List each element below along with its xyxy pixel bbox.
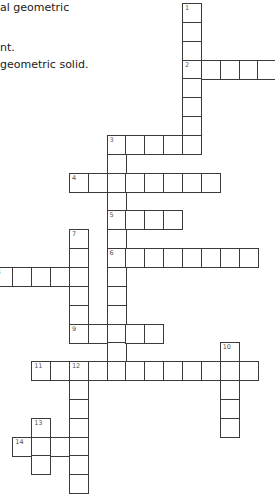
crossword-cell[interactable] [69,474,89,494]
crossword-cell[interactable] [182,22,202,42]
crossword-cell[interactable]: 1 [182,3,202,23]
crossword-cell[interactable]: 4 [69,173,89,193]
crossword-cell[interactable] [125,324,145,344]
crossword-cell[interactable]: 6 [107,248,127,268]
crossword-cell[interactable] [144,135,164,155]
crossword-cell[interactable] [88,361,108,381]
crossword-grid: 1235647981011121314 [0,0,275,494]
crossword-cell[interactable] [163,248,183,268]
crossword-cell[interactable] [69,248,89,268]
crossword-cell[interactable] [50,267,70,287]
crossword-cell[interactable] [125,135,145,155]
crossword-cell[interactable] [163,135,183,155]
crossword-cell[interactable] [163,361,183,381]
crossword-cell[interactable] [220,418,240,438]
clue-number: 7 [72,230,76,238]
crossword-cell[interactable] [50,361,70,381]
clue-number: 14 [15,438,23,446]
crossword-cell[interactable] [201,248,221,268]
crossword-cell[interactable]: 9 [69,324,89,344]
crossword-cell[interactable] [69,399,89,419]
crossword-cell[interactable] [69,455,89,475]
crossword-cell[interactable] [182,41,202,61]
crossword-cell[interactable] [163,210,183,230]
clue-number: 5 [110,211,114,219]
crossword-cell[interactable]: 3 [107,135,127,155]
crossword-cell[interactable] [125,248,145,268]
crossword-cell[interactable] [69,437,89,457]
crossword-cell[interactable] [201,60,221,80]
crossword-cell[interactable] [107,342,127,362]
crossword-cell[interactable] [144,324,164,344]
crossword-cell[interactable] [257,60,275,80]
clue-number: 10 [223,343,231,351]
crossword-cell[interactable] [88,173,108,193]
crossword-cell[interactable] [220,60,240,80]
clue-number: 13 [34,419,42,427]
crossword-cell[interactable] [107,267,127,287]
crossword-cell[interactable] [144,248,164,268]
crossword-cell[interactable] [144,173,164,193]
clue-number: 8 [0,268,1,276]
crossword-cell[interactable] [125,173,145,193]
crossword-cell[interactable] [107,229,127,249]
crossword-cell[interactable] [201,361,221,381]
crossword-cell[interactable] [107,324,127,344]
crossword-cell[interactable] [88,324,108,344]
crossword-cell[interactable] [107,286,127,306]
crossword-cell[interactable] [69,267,89,287]
crossword-cell[interactable] [182,116,202,136]
crossword-cell[interactable]: 5 [107,210,127,230]
crossword-cell[interactable] [182,361,202,381]
crossword-cell[interactable] [182,248,202,268]
crossword-cell[interactable]: 2 [182,60,202,80]
crossword-cell[interactable] [144,210,164,230]
clue-number: 6 [110,249,114,257]
crossword-cell[interactable] [107,154,127,174]
crossword-cell[interactable] [69,418,89,438]
clue-number: 9 [72,325,76,333]
crossword-cell[interactable]: 13 [31,418,51,438]
crossword-cell[interactable] [220,361,240,381]
crossword-cell[interactable] [220,399,240,419]
crossword-cell[interactable] [50,437,70,457]
crossword-cell[interactable] [107,192,127,212]
crossword-cell[interactable] [125,210,145,230]
crossword-cell[interactable] [12,267,32,287]
crossword-cell[interactable] [31,267,51,287]
crossword-cell[interactable] [220,248,240,268]
crossword-cell[interactable] [31,437,51,457]
crossword-cell[interactable] [239,248,259,268]
clue-number: 12 [72,362,80,370]
crossword-cell[interactable] [69,380,89,400]
crossword-cell[interactable] [144,361,164,381]
crossword-cell[interactable] [182,173,202,193]
crossword-cell[interactable] [125,361,145,381]
crossword-cell[interactable] [182,78,202,98]
crossword-cell[interactable] [69,305,89,325]
clue-number: 1 [185,4,189,12]
crossword-cell[interactable] [107,173,127,193]
crossword-cell[interactable] [69,286,89,306]
crossword-cell[interactable] [201,173,221,193]
crossword-cell[interactable] [239,60,259,80]
crossword-cell[interactable] [220,380,240,400]
crossword-cell[interactable]: 14 [12,437,32,457]
crossword-cell[interactable]: 10 [220,342,240,362]
crossword-cell[interactable]: 12 [69,361,89,381]
crossword-cell[interactable] [31,455,51,475]
crossword-cell[interactable] [107,361,127,381]
clue-number: 4 [72,174,76,182]
crossword-cell[interactable] [239,361,259,381]
crossword-cell[interactable]: 7 [69,229,89,249]
crossword-cell[interactable]: 11 [31,361,51,381]
clue-number: 2 [185,61,189,69]
clue-number: 11 [34,362,42,370]
crossword-cell[interactable] [182,97,202,117]
crossword-cell[interactable] [182,135,202,155]
crossword-cell[interactable] [163,173,183,193]
clue-number: 3 [110,136,114,144]
crossword-cell[interactable] [107,305,127,325]
